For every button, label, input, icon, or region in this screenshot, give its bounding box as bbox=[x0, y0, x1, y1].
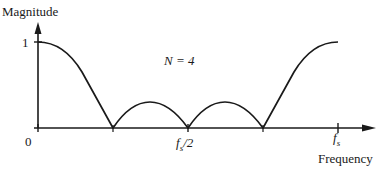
magnitude-response-diagram: Magnitude 1 0 N = 4 fs/2 fs Frequency bbox=[0, 0, 392, 172]
x-axis-label: Frequency bbox=[318, 152, 373, 165]
x-axis-arrow-icon bbox=[362, 125, 376, 132]
y-axis-label: Magnitude bbox=[2, 5, 58, 18]
x-tick-half-label: fs/2 bbox=[176, 136, 193, 153]
s-subscript: s bbox=[337, 138, 341, 148]
x-tick-full-label: fs bbox=[333, 131, 340, 148]
origin-label: 0 bbox=[25, 135, 32, 148]
y-tick-one-label: 1 bbox=[22, 36, 29, 49]
half-suffix: /2 bbox=[183, 135, 193, 150]
y-axis-arrow-icon bbox=[35, 22, 42, 34]
annotation-n: N = 4 bbox=[164, 54, 194, 67]
